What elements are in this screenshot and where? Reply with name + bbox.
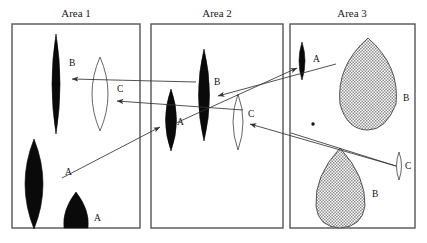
area-1-label-c: C bbox=[117, 84, 123, 94]
area-2-label-c: C bbox=[248, 109, 254, 119]
panel-title-area-1: Area 1 bbox=[61, 7, 91, 19]
diagram-canvas: Area 1 Area 2 Area 3 B C A A A B C A B B… bbox=[0, 0, 427, 243]
area-1-label-b: B bbox=[69, 58, 75, 68]
schematic-svg: Area 1 Area 2 Area 3 B C A A A B C A B B… bbox=[0, 0, 427, 243]
area-3-label-b2: B bbox=[372, 189, 378, 199]
area-3-label-a: A bbox=[313, 54, 320, 64]
area-1-label-a2: A bbox=[94, 213, 101, 223]
panel-title-area-3: Area 3 bbox=[337, 7, 367, 19]
area-3-label-b: B bbox=[403, 93, 409, 103]
panel-title-area-2: Area 2 bbox=[202, 7, 232, 19]
area-2-label-b: B bbox=[214, 77, 220, 87]
area-3-label-c: C bbox=[405, 161, 411, 171]
area-3-point-marker bbox=[311, 122, 314, 125]
